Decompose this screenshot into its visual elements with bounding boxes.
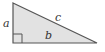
label-side-a: a — [3, 18, 10, 29]
label-side-b: b — [45, 30, 52, 41]
triangle-graphic — [0, 0, 105, 52]
label-side-c: c — [55, 12, 61, 23]
right-triangle-figure: a c b — [0, 0, 105, 52]
